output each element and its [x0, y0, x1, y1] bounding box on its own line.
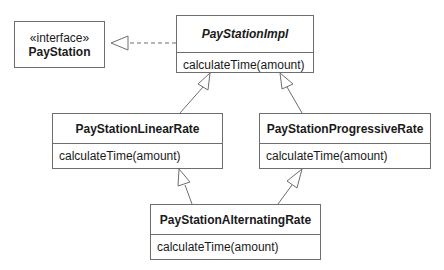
class-name: PayStationImpl	[202, 27, 289, 41]
generalization-arrowhead-icon	[287, 169, 302, 188]
generalization-line-alt-progressive	[278, 185, 292, 204]
generalization-arrowhead-icon	[178, 169, 190, 186]
generalization-line-linear	[180, 87, 203, 113]
generalization-arrowhead-icon	[280, 73, 293, 89]
class-header: PayStationAlternatingRate	[151, 205, 320, 235]
generalization-arrowhead-icon	[198, 73, 210, 90]
generalization-line-progressive	[287, 87, 302, 113]
class-header: PayStationProgressiveRate	[260, 114, 430, 144]
class-paystation: «interface» PayStation	[14, 21, 105, 68]
realization-arrowhead-icon	[111, 36, 128, 50]
class-linear-rate: PayStationLinearRate calculateTime(amoun…	[52, 113, 223, 169]
class-alternating-rate: PayStationAlternatingRate calculateTime(…	[150, 204, 321, 260]
operation: calculateTime(amount)	[177, 53, 313, 72]
class-header: PayStationImpl	[177, 16, 313, 53]
class-name: PayStationLinearRate	[75, 122, 199, 136]
class-name: PayStationProgressiveRate	[267, 122, 424, 136]
class-name: PayStationAlternatingRate	[160, 213, 311, 227]
class-header: «interface» PayStation	[15, 22, 104, 67]
class-progressive-rate: PayStationProgressiveRate calculateTime(…	[259, 113, 431, 169]
class-name: PayStation	[28, 45, 90, 59]
stereotype-label: «interface»	[30, 31, 89, 45]
class-paystationimpl: PayStationImpl calculateTime(amount)	[176, 15, 314, 73]
operation: calculateTime(amount)	[53, 144, 222, 163]
operation: calculateTime(amount)	[151, 235, 320, 254]
class-header: PayStationLinearRate	[53, 114, 222, 144]
operation: calculateTime(amount)	[260, 144, 430, 163]
generalization-line-alt-linear	[185, 185, 192, 204]
